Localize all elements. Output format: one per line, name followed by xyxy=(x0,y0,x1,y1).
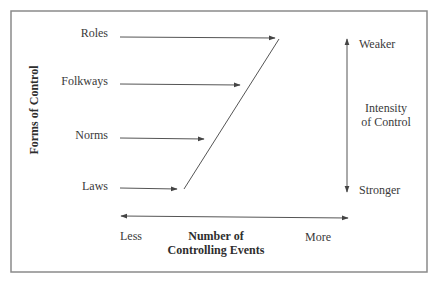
x-axis-title-line2: Controlling Events xyxy=(168,243,265,257)
form-label-laws: Laws xyxy=(82,179,108,193)
intensity-title-line2: of Control xyxy=(361,115,411,129)
y-axis-title: Forms of Control xyxy=(27,65,41,155)
intensity-title-line1: Intensity xyxy=(365,101,407,115)
intensity-top-label: Weaker xyxy=(359,37,395,51)
form-label-roles: Roles xyxy=(81,26,109,40)
form-label-norms: Norms xyxy=(75,128,108,142)
forms-of-control-diagram: Forms of Control Roles Folkways Norms La… xyxy=(0,0,438,282)
x-axis-high-label: More xyxy=(305,230,331,244)
intensity-bottom-label: Stronger xyxy=(359,183,400,197)
x-axis-low-label: Less xyxy=(120,229,142,243)
x-axis-title-line1: Number of xyxy=(188,229,244,243)
form-label-folkways: Folkways xyxy=(61,74,108,88)
